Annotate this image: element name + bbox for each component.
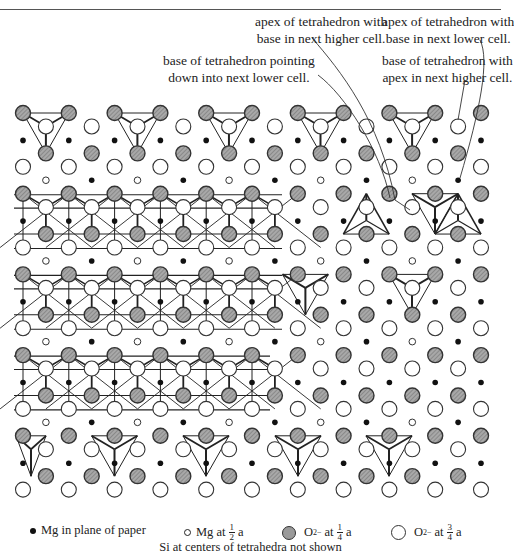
oxygen-quarter-atom	[267, 388, 282, 403]
oxygen-quarter-atom	[382, 267, 397, 282]
oxygen-quarter-atom	[38, 469, 53, 484]
small-circle-icon	[184, 529, 191, 536]
oxygen-quarter-atom	[176, 469, 191, 484]
oxygen-quarter-atom	[313, 146, 328, 161]
mg-plane-atom	[249, 138, 255, 144]
oxygen-quarter-atom	[153, 428, 168, 443]
oxygen-three-quarter-atom	[313, 442, 328, 457]
mg-plane-atom	[249, 380, 255, 386]
tetrahedron-edge	[252, 355, 321, 409]
oxygen-quarter-atom	[153, 348, 168, 363]
oxygen-quarter-atom	[382, 106, 397, 121]
oxygen-three-quarter-atom	[222, 200, 237, 215]
mg-plane-atom	[364, 420, 370, 426]
oxygen-quarter-atom	[359, 227, 374, 242]
mg-half-atom	[43, 258, 50, 265]
oxygen-three-quarter-atom	[290, 159, 305, 174]
oxygen-three-quarter-atom	[84, 119, 99, 134]
oxygen-three-quarter-atom	[245, 240, 260, 255]
mg-half-atom	[43, 338, 50, 345]
mg-half-atom	[43, 419, 50, 426]
mg-plane-atom	[89, 258, 95, 264]
oxygen-quarter-atom	[222, 146, 237, 161]
atoms-layer	[16, 106, 489, 498]
mg-half-atom	[409, 338, 416, 345]
mg-plane-atom	[249, 460, 255, 466]
oxygen-quarter-atom	[84, 469, 99, 484]
mg-half-atom	[409, 419, 416, 426]
oxygen-three-quarter-atom	[176, 119, 191, 134]
oxygen-quarter-atom	[313, 388, 328, 403]
oxygen-quarter-atom	[84, 227, 99, 242]
oxygen-quarter-atom	[176, 307, 191, 322]
mg-plane-atom	[272, 420, 278, 426]
oxygen-quarter-atom	[474, 348, 489, 363]
leader-base-higher	[458, 80, 465, 120]
mg-plane-atom	[20, 380, 26, 386]
mg-half-atom	[226, 258, 233, 265]
oxygen-three-quarter-atom	[474, 482, 489, 497]
oxygen-three-quarter-atom	[290, 401, 305, 416]
oxygen-quarter-atom	[290, 186, 305, 201]
oxygen-quarter-atom	[16, 428, 31, 443]
oxygen-quarter-atom	[61, 348, 76, 363]
tetrahedron-edge	[0, 355, 69, 409]
oxygen-three-quarter-atom	[382, 401, 397, 416]
mg-plane-atom	[203, 138, 209, 144]
mg-plane-atom	[249, 299, 255, 305]
oxygen-quarter-atom	[245, 348, 260, 363]
mg-plane-atom	[341, 138, 347, 144]
mg-plane-atom	[432, 218, 438, 224]
oxygen-quarter-atom	[38, 307, 53, 322]
oxygen-quarter-atom	[359, 388, 374, 403]
legend-label: Mg in plane of paper	[41, 523, 146, 538]
mg-plane-atom	[89, 339, 95, 345]
legend-mg-plane: Mg in plane of paper	[30, 523, 146, 538]
olivine-lattice-diagram	[0, 0, 501, 520]
mg-half-atom	[317, 258, 324, 265]
mg-plane-atom	[387, 299, 393, 305]
oxygen-quarter-atom	[61, 106, 76, 121]
oxygen-three-quarter-atom	[474, 240, 489, 255]
oxygen-quarter-atom	[336, 186, 351, 201]
mg-plane-atom	[387, 218, 393, 224]
mg-plane-atom	[455, 258, 461, 264]
oxygen-three-quarter-atom	[382, 159, 397, 174]
mg-plane-atom	[432, 380, 438, 386]
legend-label: a	[238, 525, 244, 540]
oxygen-three-quarter-atom	[130, 442, 145, 457]
oxygen-three-quarter-atom	[290, 482, 305, 497]
mg-plane-atom	[112, 138, 118, 144]
oxygen-three-quarter-atom	[61, 159, 76, 174]
oxygen-quarter-atom	[451, 469, 466, 484]
oxygen-quarter-atom	[107, 267, 122, 282]
oxygen-three-quarter-atom	[359, 361, 374, 376]
mg-plane-atom	[272, 177, 278, 183]
mg-half-atom	[226, 177, 233, 184]
mg-plane-atom	[158, 299, 164, 305]
oxygen-three-quarter-atom	[153, 401, 168, 416]
oxygen-three-quarter-atom	[359, 280, 374, 295]
oxygen-quarter-atom	[199, 106, 214, 121]
oxygen-three-quarter-atom	[153, 321, 168, 336]
oxygen-quarter-atom	[107, 186, 122, 201]
mg-plane-atom	[203, 380, 209, 386]
oxygen-quarter-atom	[313, 469, 328, 484]
oxygen-quarter-atom	[16, 348, 31, 363]
oxygen-three-quarter-atom	[474, 321, 489, 336]
mg-plane-atom	[272, 258, 278, 264]
oxygen-three-quarter-atom	[107, 482, 122, 497]
black-dot-icon	[30, 528, 36, 534]
mg-half-atom	[134, 258, 141, 265]
oxygen-three-quarter-atom	[38, 442, 53, 457]
oxygen-three-quarter-atom	[107, 159, 122, 174]
oxygen-quarter-atom	[405, 469, 420, 484]
oxygen-quarter-atom	[451, 146, 466, 161]
oxygen-quarter-atom	[359, 307, 374, 322]
mg-plane-atom	[158, 380, 164, 386]
tetrahedron-edge	[252, 194, 321, 248]
oxygen-quarter-atom	[336, 348, 351, 363]
oxygen-three-quarter-atom	[61, 482, 76, 497]
mg-half-atom	[317, 419, 324, 426]
mg-plane-atom	[387, 460, 393, 466]
